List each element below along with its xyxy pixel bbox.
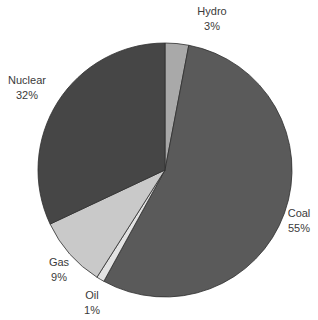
- label-nuclear-pct: 32%: [8, 88, 46, 103]
- label-gas: Gas 9%: [49, 255, 69, 285]
- label-hydro-name: Hydro: [197, 4, 226, 19]
- label-hydro: Hydro 3%: [197, 4, 226, 34]
- label-nuclear-name: Nuclear: [8, 73, 46, 88]
- label-gas-pct: 9%: [49, 270, 69, 285]
- label-coal-pct: 55%: [288, 221, 311, 236]
- label-nuclear: Nuclear 32%: [8, 73, 46, 103]
- label-oil-pct: 1%: [84, 303, 100, 318]
- label-hydro-pct: 3%: [197, 19, 226, 34]
- pie-slices: [38, 43, 292, 297]
- pie-chart: [0, 0, 318, 320]
- label-coal: Coal 55%: [288, 206, 311, 236]
- label-oil: Oil 1%: [84, 288, 100, 318]
- label-oil-name: Oil: [84, 288, 100, 303]
- label-coal-name: Coal: [288, 206, 311, 221]
- label-gas-name: Gas: [49, 255, 69, 270]
